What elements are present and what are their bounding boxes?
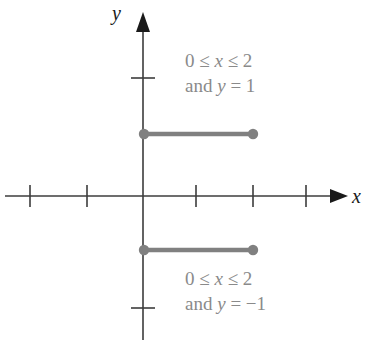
upper-annotation-line-1: 0 ≤ x ≤ 2 [185, 48, 255, 73]
lower-condition-annotation: 0 ≤ x ≤ 2 and y = −1 [185, 266, 266, 316]
y-axis-arrowhead [136, 12, 150, 32]
coordinate-plane-figure: y x 0 ≤ x ≤ 2 and y = 1 0 ≤ x ≤ 2 and y … [0, 0, 371, 345]
lower-segment [139, 245, 258, 255]
y-axis-label: y [112, 3, 121, 23]
lower-annotation-line-2: and y = −1 [185, 291, 266, 316]
upper-condition-annotation: 0 ≤ x ≤ 2 and y = 1 [185, 48, 255, 98]
upper-annotation-line-2-prefix: and [185, 75, 217, 96]
upper-annotation-line-2-variable: y [217, 75, 225, 96]
lower-segment-left-endpoint-dot [139, 245, 149, 255]
lower-annotation-line-2-prefix: and [185, 293, 217, 314]
lower-annotation-line-2-suffix: = −1 [226, 293, 266, 314]
upper-segment-left-endpoint-dot [139, 129, 149, 139]
x-axis-arrowhead [330, 189, 348, 203]
lower-segment-right-endpoint-dot [248, 245, 258, 255]
upper-annotation-line-2: and y = 1 [185, 73, 255, 98]
upper-annotation-line-2-suffix: = 1 [226, 75, 256, 96]
lower-annotation-line-1-suffix: ≤ 2 [223, 268, 252, 289]
lower-annotation-line-1-variable: x [214, 268, 222, 289]
upper-annotation-line-1-variable: x [214, 50, 222, 71]
upper-annotation-line-1-suffix: ≤ 2 [223, 50, 252, 71]
upper-segment [139, 129, 258, 139]
lower-annotation-line-1: 0 ≤ x ≤ 2 [185, 266, 266, 291]
x-axis-label: x [352, 186, 361, 206]
upper-segment-right-endpoint-dot [248, 129, 258, 139]
lower-annotation-line-1-prefix: 0 ≤ [185, 268, 214, 289]
lower-annotation-line-2-variable: y [217, 293, 225, 314]
upper-annotation-line-1-prefix: 0 ≤ [185, 50, 214, 71]
